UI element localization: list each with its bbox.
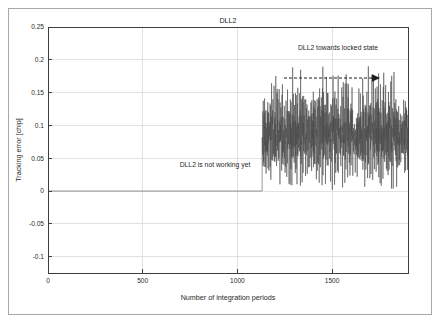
chart-container: 0.25 0.2 0.15 0.1 0.05 0 -0.05 -0.1 0 50… [0,0,441,325]
x-tick-label-0: 0 [46,277,50,284]
y-tick-label-5: 0 [40,187,44,194]
locked-state-annotation: DLL2 towards locked state [298,44,378,51]
y-tick-label-4: 0.05 [31,155,44,162]
y-tick-label-6: -0.05 [29,220,44,227]
x-tick-label-3: 1500 [325,277,340,284]
y-tick-label-0: 0.25 [31,23,44,30]
x-tick-label-2: 1000 [230,277,245,284]
y-tick-label-3: 0.1 [35,122,44,129]
x-tick-label-1: 500 [137,277,148,284]
x-axis-title: Number of integration periods [181,293,276,302]
y-tick-label-1: 0.2 [35,56,44,63]
not-working-annotation: DLL2 is not working yet [180,161,251,169]
dll2-tracking-error-chart: 0.25 0.2 0.15 0.1 0.05 0 -0.05 -0.1 0 50… [0,0,441,325]
chart-title: DLL2 [219,16,236,25]
y-axis-title: Tracking error [chip] [14,118,23,182]
y-tick-label-7: -0.1 [33,253,45,260]
y-tick-label-2: 0.15 [31,89,44,96]
